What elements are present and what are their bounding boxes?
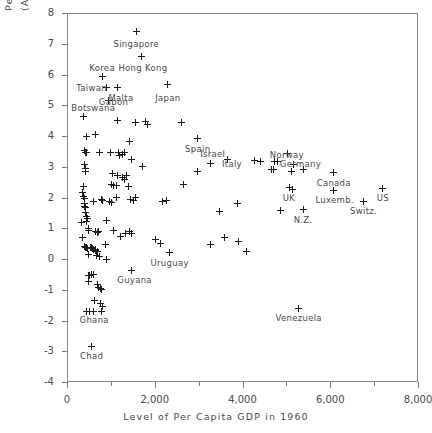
data-point-label: Germany bbox=[280, 159, 321, 169]
data-point bbox=[178, 119, 185, 126]
data-point bbox=[108, 199, 115, 206]
data-point bbox=[221, 234, 228, 241]
x-axis-tick-label: 8,000 bbox=[404, 393, 432, 406]
data-point-label: Botswana bbox=[71, 103, 115, 113]
data-point bbox=[80, 113, 87, 120]
data-point bbox=[96, 253, 103, 260]
data-point-label: Japan bbox=[155, 93, 180, 103]
data-point bbox=[83, 149, 90, 156]
data-point bbox=[138, 53, 145, 60]
data-point bbox=[133, 28, 140, 35]
data-point bbox=[216, 208, 223, 215]
data-point-label: Israel bbox=[200, 149, 225, 159]
data-point bbox=[180, 181, 187, 188]
data-point bbox=[95, 228, 102, 235]
y-axis-tick: -1 bbox=[62, 290, 68, 291]
data-point bbox=[243, 248, 250, 255]
data-point bbox=[295, 305, 302, 312]
data-point bbox=[99, 73, 106, 80]
x-axis-tick-label: 4,000 bbox=[228, 393, 257, 406]
data-point-label: Canada bbox=[317, 178, 351, 188]
data-point bbox=[235, 238, 242, 245]
data-point bbox=[257, 158, 264, 165]
data-point bbox=[207, 160, 214, 167]
data-point bbox=[330, 187, 337, 194]
data-point-label: Taiwan bbox=[76, 83, 107, 93]
y-axis-title-line-1: Percentage Growth Rate of Per Capita GDP bbox=[3, 0, 14, 11]
x-axis-minor-tick bbox=[111, 382, 112, 386]
data-point bbox=[144, 121, 151, 128]
x-axis-tick-label: 2,000 bbox=[140, 393, 169, 406]
data-point-label: Venezuela bbox=[275, 313, 321, 323]
data-point bbox=[194, 168, 201, 175]
data-point bbox=[300, 206, 307, 213]
data-point-label: UK bbox=[283, 193, 295, 203]
x-axis-tick: 2,000 bbox=[155, 382, 156, 388]
data-point bbox=[330, 169, 337, 176]
data-point bbox=[113, 182, 120, 189]
y-axis-tick: 4 bbox=[62, 136, 68, 137]
data-point bbox=[107, 149, 114, 156]
y-axis-title: Percentage Growth Rate of Per Capita GDP… bbox=[0, 0, 36, 382]
y-axis-tick-label: -3 bbox=[44, 344, 54, 357]
y-axis-tick-label: 7 bbox=[48, 37, 54, 50]
data-point bbox=[139, 163, 146, 170]
y-axis-tick-label: 0 bbox=[48, 252, 54, 265]
x-axis-minor-tick bbox=[374, 382, 375, 386]
data-point bbox=[194, 135, 201, 142]
data-point-label: Korea bbox=[89, 63, 115, 73]
data-point bbox=[92, 131, 99, 138]
x-axis-minor-tick bbox=[199, 382, 200, 386]
y-axis-tick-label: 4 bbox=[48, 129, 54, 142]
x-axis-tick: 4,000 bbox=[243, 382, 244, 388]
y-axis-tick: 6 bbox=[62, 75, 68, 76]
data-point bbox=[128, 230, 135, 237]
data-point bbox=[166, 249, 173, 256]
y-axis-tick: -2 bbox=[62, 321, 68, 322]
data-point bbox=[121, 149, 128, 156]
data-point bbox=[164, 81, 171, 88]
data-point-label: Italy bbox=[222, 159, 242, 169]
data-point bbox=[125, 183, 132, 190]
data-point bbox=[126, 138, 133, 145]
data-point bbox=[123, 172, 130, 179]
plot-area: -4-3-2-101234567802,0004,0006,0008,000Si… bbox=[67, 13, 418, 382]
data-point bbox=[85, 251, 92, 258]
x-axis-tick-label: 6,000 bbox=[316, 393, 345, 406]
data-point-label: Uruguay bbox=[151, 258, 189, 268]
data-point bbox=[96, 149, 103, 156]
y-axis-tick: 5 bbox=[62, 105, 68, 106]
data-point bbox=[360, 198, 367, 205]
data-point bbox=[152, 236, 159, 243]
data-point bbox=[207, 241, 214, 248]
data-point bbox=[277, 207, 284, 214]
data-point bbox=[234, 200, 241, 207]
data-point-label: Ghana bbox=[80, 315, 109, 325]
data-point bbox=[114, 117, 121, 124]
y-axis-tick-label: 8 bbox=[48, 6, 54, 19]
data-point-label: Switz. bbox=[350, 206, 377, 216]
x-axis-tick-label: 0 bbox=[64, 393, 70, 406]
y-axis-tick-label: 5 bbox=[48, 98, 54, 111]
data-point bbox=[85, 278, 92, 285]
data-point bbox=[98, 286, 105, 293]
data-point-label: Guyana bbox=[117, 275, 152, 285]
y-axis-tick: 7 bbox=[62, 44, 68, 45]
data-point-label: US bbox=[377, 193, 389, 203]
y-axis-tick: 2 bbox=[62, 198, 68, 199]
data-point bbox=[103, 217, 110, 224]
data-point bbox=[128, 156, 135, 163]
y-axis-tick: -3 bbox=[62, 351, 68, 352]
y-axis-tick: 0 bbox=[62, 259, 68, 260]
data-point-label: Hong Kong bbox=[118, 63, 167, 73]
data-point bbox=[379, 185, 386, 192]
data-point bbox=[289, 186, 296, 193]
data-point bbox=[132, 119, 139, 126]
data-point bbox=[78, 219, 85, 226]
x-axis-tick: 6,000 bbox=[330, 382, 331, 388]
y-axis-tick-label: 3 bbox=[48, 160, 54, 173]
data-point bbox=[99, 303, 106, 310]
data-point bbox=[102, 241, 109, 248]
y-axis-tick: 8 bbox=[62, 13, 68, 14]
y-axis-tick-label: -1 bbox=[44, 283, 54, 296]
